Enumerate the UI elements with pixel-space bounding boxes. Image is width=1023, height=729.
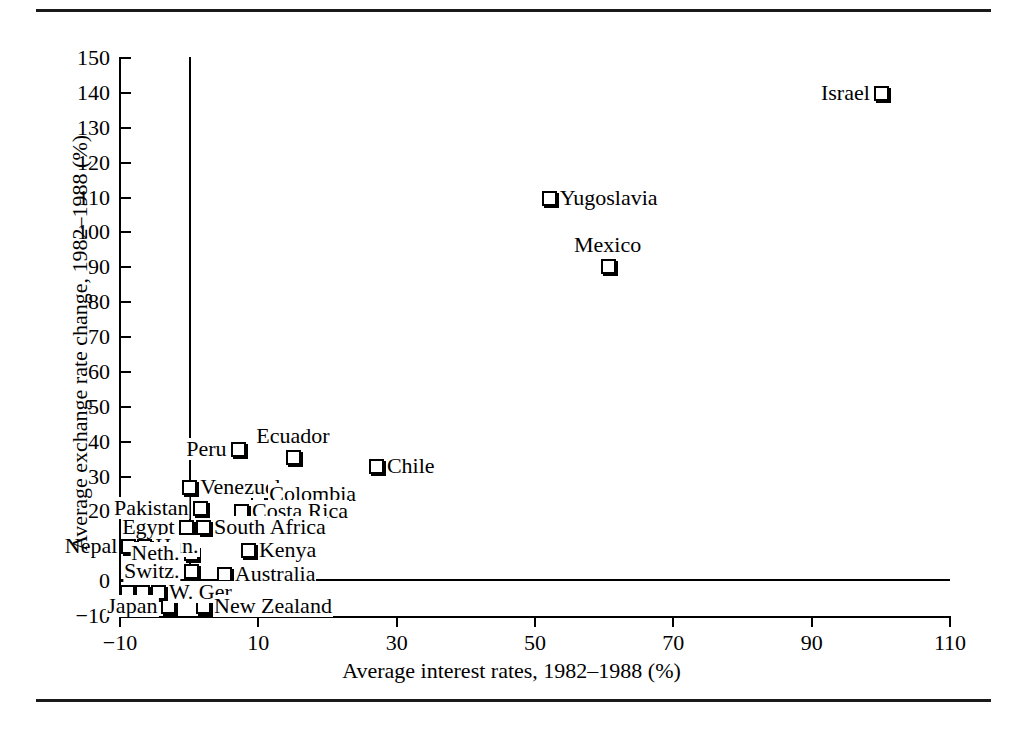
- x-tick-label: 90: [772, 631, 852, 655]
- y-tick: [119, 231, 131, 233]
- data-point-marker: [874, 86, 889, 101]
- x-tick-label: 70: [633, 631, 713, 655]
- data-point-label: Ecuador: [255, 425, 330, 447]
- data-point-marker: [542, 191, 557, 206]
- x-tick: [396, 616, 398, 627]
- data-point-label: Kenya: [258, 539, 317, 561]
- y-tick: [119, 92, 131, 94]
- x-tick: [949, 616, 951, 627]
- y-tick: [119, 406, 131, 408]
- data-point-marker: [601, 259, 616, 274]
- data-point-marker: [182, 480, 197, 495]
- x-tick: [257, 616, 259, 627]
- x-tick-label: 10: [218, 631, 298, 655]
- y-tick: [119, 371, 131, 373]
- y-tick: [119, 162, 131, 164]
- y-tick: [119, 197, 131, 199]
- data-point-label: Peru: [185, 438, 227, 460]
- y-tick: [119, 301, 131, 303]
- x-axis-title: Average interest rates, 1982–1988 (%): [0, 658, 1023, 684]
- y-tick: [119, 476, 131, 478]
- y-tick: [119, 266, 131, 268]
- data-point-label: Yugoslavia: [559, 187, 659, 209]
- data-point-marker: [369, 459, 384, 474]
- y-tick: [119, 336, 131, 338]
- x-tick-label: −10: [80, 631, 160, 655]
- x-tick-label: 30: [357, 631, 437, 655]
- x-tick: [119, 616, 121, 627]
- y-tick: [119, 441, 131, 443]
- data-point-label: South Africa: [213, 516, 327, 538]
- x-tick-label: 50: [495, 631, 575, 655]
- data-point-label: Japan: [106, 595, 158, 617]
- data-point-label: Mexico: [573, 234, 642, 256]
- data-point-marker: [286, 450, 301, 465]
- data-point-label: Israel: [820, 82, 871, 104]
- data-point-marker: [184, 564, 199, 579]
- data-point-label: New Zealand: [213, 595, 333, 617]
- x-tick: [534, 616, 536, 627]
- y-tick: [119, 57, 131, 59]
- data-point-marker: [196, 520, 211, 535]
- data-point-marker: [241, 543, 256, 558]
- x-tick-label: 110: [910, 631, 990, 655]
- x-tick: [811, 616, 813, 627]
- scatter-plot: −100102030405060708090100110120130140150…: [0, 0, 1023, 729]
- y-tick: [119, 127, 131, 129]
- x-tick: [672, 616, 674, 627]
- data-point-marker: [193, 501, 208, 516]
- data-point-label: Chile: [386, 455, 436, 477]
- data-point-label: Australia: [234, 563, 317, 585]
- data-point-marker: [231, 442, 246, 457]
- y-axis-title: Average exchange rate change, 1982–1988 …: [67, 63, 93, 623]
